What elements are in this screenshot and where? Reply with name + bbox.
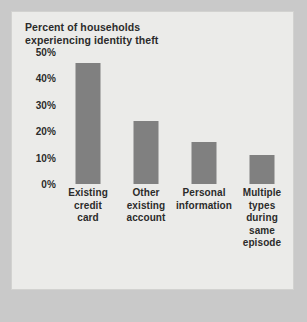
bars-layer [59, 52, 291, 184]
bar-slot-existing-credit-card [59, 52, 117, 184]
plot-area: 50% 40% 30% 20% 10% 0% Existing credit c… [12, 12, 295, 291]
bar-other-existing-account[interactable] [134, 121, 159, 184]
bar-personal-information[interactable] [192, 142, 217, 184]
y-tick-label-0: 0% [22, 179, 56, 190]
bar-slot-other-existing-account [117, 52, 175, 184]
y-tick-label-50: 50% [22, 47, 56, 58]
y-tick-label-10: 10% [22, 152, 56, 163]
bar-multiple-types-same-episode[interactable] [250, 155, 275, 184]
bar-slot-multiple-types [233, 52, 291, 184]
x-label-existing-credit-card: Existing credit card [59, 187, 117, 225]
x-label-personal-information: Personal information [175, 187, 233, 212]
chart-figure-frame: Percent of households experiencing ident… [11, 11, 294, 290]
y-tick-label-20: 20% [22, 126, 56, 137]
x-label-multiple-types: Multiple types during same episode [233, 187, 291, 250]
bar-existing-credit-card[interactable] [76, 63, 101, 184]
y-tick-label-40: 40% [22, 73, 56, 84]
x-label-other-existing-account: Other existing account [117, 187, 175, 225]
y-tick-label-30: 30% [22, 99, 56, 110]
bar-slot-personal-information [175, 52, 233, 184]
y-axis: 50% 40% 30% 20% 10% 0% [18, 52, 56, 184]
